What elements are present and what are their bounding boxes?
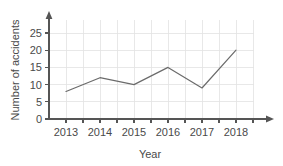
x-tick-label-2017: 2017 bbox=[190, 126, 214, 138]
x-tick-label-2014: 2014 bbox=[88, 126, 112, 138]
line-chart: 0 5 10 15 20 25 2013 2014 bbox=[0, 0, 283, 166]
chart-background bbox=[0, 0, 283, 166]
y-tick-label-15: 15 bbox=[30, 61, 42, 73]
x-tick-label-2015: 2015 bbox=[122, 126, 146, 138]
x-tick-label-2013: 2013 bbox=[54, 126, 78, 138]
chart-canvas: 0 5 10 15 20 25 2013 2014 bbox=[0, 0, 283, 166]
x-tick-label-2018: 2018 bbox=[224, 126, 248, 138]
y-tick-label-0: 0 bbox=[36, 113, 42, 125]
x-axis-title: Year bbox=[139, 148, 162, 160]
y-tick-label-20: 20 bbox=[30, 44, 42, 56]
x-tick-label-2016: 2016 bbox=[156, 126, 180, 138]
y-tick-label-5: 5 bbox=[36, 96, 42, 108]
y-axis-title: Number of accidents bbox=[9, 19, 21, 120]
y-tick-label-25: 25 bbox=[30, 27, 42, 39]
y-tick-label-10: 10 bbox=[30, 79, 42, 91]
